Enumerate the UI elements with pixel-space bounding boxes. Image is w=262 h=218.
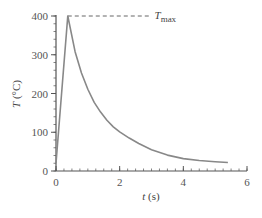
temperature-curve xyxy=(56,16,228,163)
minor-ticks xyxy=(54,16,248,171)
y-tick-label: 400 xyxy=(32,10,49,22)
y-tick-label: 300 xyxy=(32,49,49,61)
x-tick-labels: 0246 xyxy=(53,176,250,188)
x-tick-label: 4 xyxy=(181,176,187,188)
y-axis-label: T (°C) xyxy=(10,80,23,108)
tmax-label: Tmax xyxy=(155,9,177,24)
y-tick-label: 0 xyxy=(43,165,49,177)
x-tick-label: 2 xyxy=(117,176,123,188)
y-tick-label: 200 xyxy=(32,88,49,100)
y-tick-labels: 0100200300400 xyxy=(32,10,49,177)
x-axis-label: t (s) xyxy=(142,190,160,203)
x-tick-label: 6 xyxy=(244,176,250,188)
y-tick-label: 100 xyxy=(32,126,49,138)
x-tick-label: 0 xyxy=(53,176,59,188)
temperature-chart: 0100200300400 0246 Tmax t (s) T (°C) xyxy=(0,0,262,218)
